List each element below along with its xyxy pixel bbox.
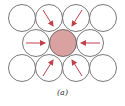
neighbor-circle — [36, 5, 63, 32]
neighbor-circle — [9, 55, 36, 82]
neighbor-circle — [9, 5, 36, 32]
center-atom — [50, 30, 77, 57]
neighbor-circle — [63, 5, 90, 32]
neighbor-circle — [63, 55, 90, 82]
neighbor-circle — [90, 55, 117, 82]
neighbor-circle — [36, 55, 63, 82]
neighbor-circle — [90, 5, 117, 32]
figure-caption: (a) — [0, 88, 125, 97]
